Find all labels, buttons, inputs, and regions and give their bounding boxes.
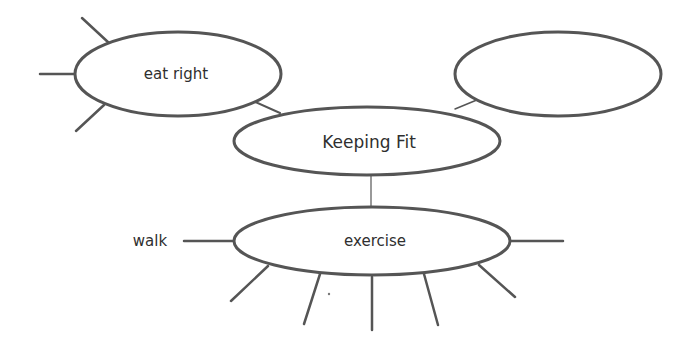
eat-right-spoke-top [82,18,109,43]
exercise-spoke-bottom-4 [424,274,438,325]
exercise-spoke-bottom-5 [479,265,515,297]
walk-label: walk [133,232,167,250]
exercise-spoke-bottom-1 [231,266,268,301]
keeping-fit-web-diagram [0,0,693,346]
exercise-label: exercise [344,232,406,250]
connector-eat-right [253,101,280,113]
exercise-spoke-bottom-2 [304,274,320,324]
keeping-fit-label: Keeping Fit [322,132,416,152]
node-empty [455,32,661,116]
eat-right-spoke-bottom [76,105,104,131]
stray-dot [328,293,330,295]
eat-right-label: eat right [144,65,208,83]
